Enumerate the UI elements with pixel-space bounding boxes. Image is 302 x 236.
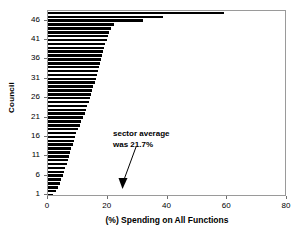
bar bbox=[48, 109, 86, 111]
bar bbox=[48, 97, 90, 99]
sector-average-annotation: sector average was 21.7% bbox=[113, 128, 169, 150]
bar bbox=[48, 19, 143, 21]
bar bbox=[48, 27, 111, 29]
x-tick-mark bbox=[47, 196, 48, 199]
x-tick-mark bbox=[226, 196, 227, 199]
y-tick-label: 11 bbox=[18, 151, 40, 159]
bar bbox=[48, 89, 92, 91]
y-tick-label: 31 bbox=[18, 74, 40, 82]
x-tick-label: 20 bbox=[95, 202, 119, 210]
bar bbox=[48, 159, 68, 161]
y-tick-label: 1 bbox=[18, 190, 40, 198]
y-tick-label: 16 bbox=[18, 132, 40, 140]
bar bbox=[48, 132, 76, 134]
bar bbox=[48, 47, 104, 49]
bar bbox=[48, 155, 69, 157]
x-tick-mark bbox=[167, 196, 168, 199]
bar bbox=[48, 167, 65, 169]
bar bbox=[48, 128, 78, 130]
bar bbox=[48, 70, 98, 72]
bar bbox=[48, 147, 71, 149]
bar bbox=[48, 58, 101, 60]
bar bbox=[48, 81, 95, 83]
annotation-line-1: sector average bbox=[113, 128, 169, 139]
annotation-line-2: was 21.7% bbox=[113, 139, 169, 150]
chart-figure: Council 161116212631364146 020406080 sec… bbox=[0, 0, 302, 236]
x-tick-mark bbox=[107, 196, 108, 199]
bar bbox=[48, 124, 80, 126]
bar bbox=[48, 16, 163, 18]
y-tick-label: 6 bbox=[18, 171, 40, 179]
bar bbox=[48, 31, 109, 33]
bar bbox=[48, 190, 56, 192]
bar bbox=[48, 66, 99, 68]
bar bbox=[48, 182, 60, 184]
bar bbox=[48, 85, 93, 87]
bar bbox=[48, 120, 81, 122]
bar bbox=[48, 171, 64, 173]
bar bbox=[48, 35, 108, 37]
bar bbox=[48, 151, 70, 153]
bar bbox=[48, 54, 102, 56]
bar bbox=[48, 116, 83, 118]
y-tick-label: 41 bbox=[18, 35, 40, 43]
bar bbox=[48, 12, 224, 14]
bar bbox=[48, 186, 58, 188]
bar bbox=[48, 74, 97, 76]
plot-area bbox=[47, 10, 286, 196]
bar bbox=[48, 39, 107, 41]
y-tick-label: 36 bbox=[18, 54, 40, 62]
x-tick-label: 80 bbox=[274, 202, 298, 210]
bar bbox=[48, 23, 114, 25]
x-axis-title: (%) Spending on All Functions bbox=[48, 215, 286, 225]
bar bbox=[48, 194, 53, 196]
bar bbox=[48, 62, 100, 64]
bar bbox=[48, 43, 105, 45]
bar bbox=[48, 136, 75, 138]
y-tick-label: 26 bbox=[18, 93, 40, 101]
bar bbox=[48, 78, 96, 80]
y-tick-label: 46 bbox=[18, 16, 40, 24]
bar bbox=[48, 140, 74, 142]
bar bbox=[48, 105, 87, 107]
bar bbox=[48, 112, 85, 114]
bar bbox=[48, 50, 103, 52]
bar bbox=[48, 178, 61, 180]
bar bbox=[48, 174, 63, 176]
y-tick-label: 21 bbox=[18, 113, 40, 121]
bar bbox=[48, 101, 89, 103]
x-tick-label: 40 bbox=[155, 202, 179, 210]
bar bbox=[48, 143, 73, 145]
x-tick-label: 0 bbox=[35, 202, 59, 210]
y-axis-title: Council bbox=[7, 63, 16, 133]
bar bbox=[48, 163, 67, 165]
bar bbox=[48, 93, 91, 95]
x-tick-mark bbox=[286, 196, 287, 199]
x-tick-label: 60 bbox=[214, 202, 238, 210]
